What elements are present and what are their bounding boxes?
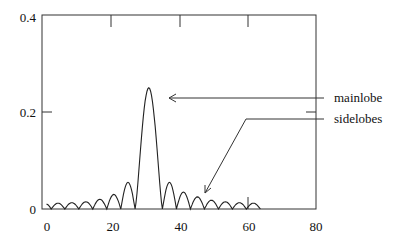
x-tick-label: 20 bbox=[107, 219, 120, 234]
chart: mainlobe sidelobes 0.4 0.2 0 0 20 40 60 … bbox=[0, 0, 401, 245]
annotation-arrows bbox=[169, 94, 324, 193]
sidelobes-label: sidelobes bbox=[334, 111, 382, 126]
mainlobe-label: mainlobe bbox=[334, 90, 383, 105]
response-curve bbox=[46, 88, 260, 209]
y-tick-label: 0.4 bbox=[20, 10, 37, 25]
x-tick-label: 80 bbox=[310, 219, 323, 234]
sidelobes-arrowhead-icon bbox=[205, 185, 211, 193]
y-tick-label: 0.2 bbox=[20, 105, 36, 120]
x-tick-label: 60 bbox=[243, 219, 256, 234]
x-tick-label: 0 bbox=[44, 219, 51, 234]
plot-frame bbox=[42, 15, 316, 209]
sidelobes-arrow bbox=[205, 119, 324, 193]
axis-ticks bbox=[42, 15, 316, 209]
x-tick-label: 40 bbox=[175, 219, 188, 234]
y-tick-label: 0 bbox=[30, 202, 37, 217]
